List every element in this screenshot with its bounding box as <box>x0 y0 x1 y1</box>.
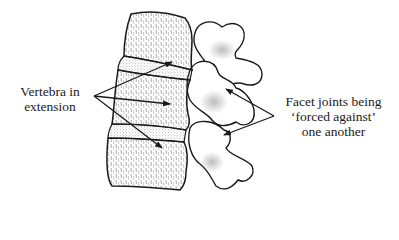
facet-label-line-1: Facet joints being <box>268 94 399 109</box>
facet-joints-label: Facet joints being ‘forced against’ one … <box>268 94 399 139</box>
vertebra-label-line-1: Vertebra in <box>4 84 96 99</box>
lower-facet-process <box>189 121 253 188</box>
facet-label-line-3: one another <box>268 124 399 139</box>
middle-vertebral-body <box>112 70 190 130</box>
vertebra-label-line-2: extension <box>4 99 96 114</box>
facet-label-line-2: ‘forced against’ <box>268 109 399 124</box>
lower-vertebral-body <box>107 138 188 190</box>
vertebra-in-extension-label: Vertebra in extension <box>4 84 96 114</box>
